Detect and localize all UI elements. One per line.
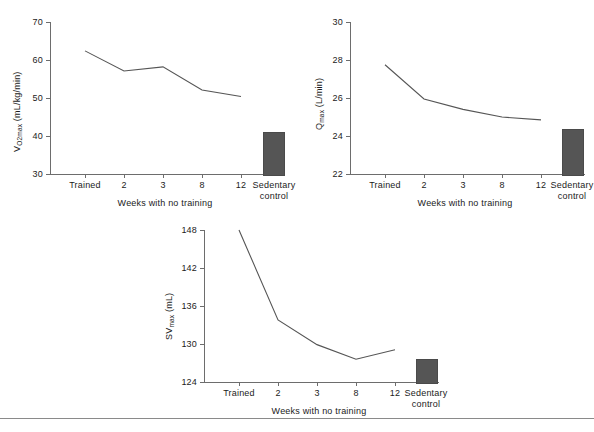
series-line-svmax [146, 216, 446, 416]
series-line-vo2max [0, 0, 300, 218]
bar-sedentary-control-svmax [416, 359, 438, 384]
footer-divider [0, 418, 594, 419]
chart-panel-qmax: Qmax (L/min) 30 28 26 24 22 Trained 2 3 … [296, 0, 594, 218]
chart-panel-vo2max: VO2max (mL/kg/min) 70 60 50 40 30 Traine… [0, 0, 300, 218]
figure-deconditioning-panels: VO2max (mL/kg/min) 70 60 50 40 30 Traine… [0, 0, 594, 432]
chart-panel-svmax: SVmax (mL) 148 142 136 130 124 Trained 2… [146, 216, 446, 416]
bar-sedentary-control-vo2max [263, 132, 285, 176]
series-line-qmax [296, 0, 594, 218]
bar-sedentary-control-qmax [562, 129, 584, 176]
